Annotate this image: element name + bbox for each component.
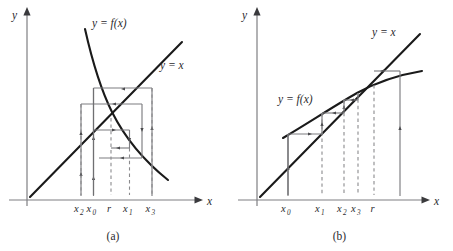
svg-text:x: x bbox=[73, 203, 79, 214]
figure-root: y x y = f(x) y = x x 2 x 0 r x 1 x 3 bbox=[0, 0, 453, 251]
svg-text:x: x bbox=[336, 203, 342, 214]
x-axis-a bbox=[9, 196, 203, 203]
svg-text:3: 3 bbox=[356, 209, 361, 217]
svg-text:x: x bbox=[145, 203, 151, 214]
y-axis-label-b: y bbox=[241, 9, 248, 22]
tick-label-r-b: r bbox=[371, 203, 376, 214]
svg-text:0: 0 bbox=[287, 209, 291, 217]
svg-text:x: x bbox=[280, 203, 286, 214]
svg-text:x: x bbox=[314, 203, 320, 214]
x-axis-b bbox=[238, 196, 430, 203]
panel-b: y x y = f(x) y = x x 0 x 1 x 2 x 3 r bbox=[226, 0, 453, 251]
svg-text:0: 0 bbox=[93, 209, 97, 217]
function-label-b: y = f(x) bbox=[277, 93, 313, 106]
y-axis-label-a: y bbox=[11, 9, 18, 22]
svg-text:1: 1 bbox=[129, 209, 133, 217]
caption-b: (b) bbox=[226, 230, 453, 242]
svg-text:1: 1 bbox=[321, 209, 325, 217]
identity-label-a: y = x bbox=[159, 59, 185, 72]
caption-a: (a) bbox=[0, 230, 226, 242]
tick-label-x3-b: x 3 bbox=[350, 203, 361, 217]
tick-label-r-a: r bbox=[107, 203, 112, 214]
tick-label-x1-b: x 1 bbox=[314, 203, 325, 217]
y-axis-a bbox=[23, 7, 30, 206]
svg-text:r: r bbox=[107, 203, 112, 214]
cobweb-path-a bbox=[79, 87, 153, 196]
function-label-a: y = f(x) bbox=[91, 17, 127, 30]
y-axis-b bbox=[253, 7, 260, 206]
panel-a: y x y = f(x) y = x x 2 x 0 r x 1 x 3 bbox=[0, 0, 226, 251]
tick-label-x2-b: x 2 bbox=[336, 203, 347, 217]
x-axis-label-b: x bbox=[433, 195, 440, 207]
svg-text:x: x bbox=[86, 203, 92, 214]
svg-text:x: x bbox=[122, 203, 128, 214]
identity-line-b bbox=[260, 34, 420, 197]
panel-a-canvas: y x y = f(x) y = x x 2 x 0 r x 1 x 3 bbox=[0, 0, 226, 251]
tick-label-x0-b: x 0 bbox=[280, 203, 291, 217]
tick-label-x2-a: x 2 bbox=[73, 203, 84, 217]
tick-label-x1-a: x 1 bbox=[122, 203, 133, 217]
identity-label-b: y = x bbox=[371, 26, 397, 39]
svg-text:x: x bbox=[350, 203, 356, 214]
x-axis-label-a: x bbox=[206, 195, 213, 207]
svg-text:3: 3 bbox=[151, 209, 156, 217]
tick-label-x3-a: x 3 bbox=[145, 203, 156, 217]
svg-text:r: r bbox=[371, 203, 376, 214]
tick-label-x0-a: x 0 bbox=[86, 203, 97, 217]
svg-text:2: 2 bbox=[343, 209, 347, 217]
panel-b-canvas: y x y = f(x) y = x x 0 x 1 x 2 x 3 r bbox=[226, 0, 453, 251]
svg-text:2: 2 bbox=[80, 209, 84, 217]
